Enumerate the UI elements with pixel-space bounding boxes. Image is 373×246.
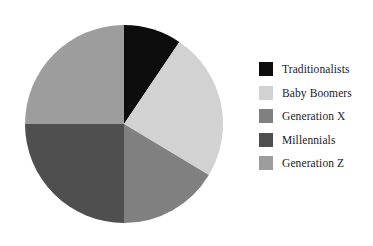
legend-label: Baby Boomers bbox=[282, 87, 352, 99]
pie-slice bbox=[25, 124, 124, 223]
legend-item: Millennials bbox=[259, 132, 371, 148]
legend-item: Baby Boomers bbox=[259, 85, 371, 101]
pie-slice bbox=[25, 25, 124, 124]
legend-label: Generation X bbox=[282, 110, 345, 122]
legend-label: Millennials bbox=[282, 134, 336, 146]
legend-label: Generation Z bbox=[282, 157, 344, 169]
legend-item: Traditionalists bbox=[259, 61, 371, 77]
chart-legend: TraditionalistsBaby BoomersGeneration XM… bbox=[259, 61, 371, 179]
legend-swatch bbox=[259, 133, 273, 147]
legend-item: Generation X bbox=[259, 108, 371, 124]
pie-slice-group bbox=[25, 25, 223, 223]
legend-swatch bbox=[259, 156, 273, 170]
legend-label: Traditionalists bbox=[282, 63, 350, 75]
legend-swatch bbox=[259, 109, 273, 123]
pie-chart-figure: TraditionalistsBaby BoomersGeneration XM… bbox=[0, 0, 373, 246]
legend-swatch bbox=[259, 62, 273, 76]
legend-item: Generation Z bbox=[259, 155, 371, 171]
legend-swatch bbox=[259, 86, 273, 100]
